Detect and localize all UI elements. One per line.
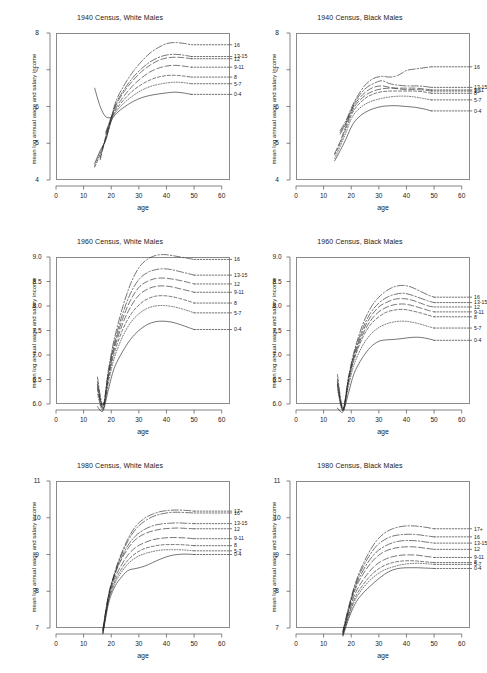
series-label-12: 12 [234,281,240,287]
x-axis-tick-label: 40 [394,192,418,199]
series-label-0-4: 0-4 [474,337,482,343]
x-axis-title: age [296,652,470,659]
series-line-9-11 [103,538,194,632]
y-axis-title: mean log annual wage and salary income [31,29,37,189]
x-axis-tick-label: 60 [450,640,474,647]
series-line-12 [97,278,194,407]
panel-p1940-white: 1940 Census, White Males1613-15129-1185-… [0,0,240,224]
series-line-16 [103,512,194,629]
series-label-16: 16 [234,510,240,516]
x-axis-tick-label: 30 [127,416,151,423]
x-axis-title: age [296,428,470,435]
series-line-13-15 [337,293,434,409]
x-axis-title: age [56,652,230,659]
series-line-8 [103,545,194,633]
x-axis-tick-label: 30 [367,416,391,423]
x-axis-title: age [56,204,230,211]
x-axis-tick-label: 50 [182,192,206,199]
x-axis-tick-label: 30 [367,640,391,647]
series-line-0-4 [95,92,192,163]
x-axis-tick-label: 30 [127,192,151,199]
x-axis-tick-label: 40 [154,192,178,199]
x-axis-tick-label: 30 [127,640,151,647]
x-axis-tick-label: 60 [450,192,474,199]
x-axis-tick-label: 60 [450,416,474,423]
x-axis-tick-label: 60 [210,416,234,423]
x-axis-tick-label: 20 [339,192,363,199]
series-line-8 [335,91,432,155]
panel-p1940-black: 1940 Census, Black Males1613-15129-1185-… [240,0,480,224]
series-line-0-4 [337,337,434,412]
x-axis-tick-label: 60 [210,192,234,199]
y-axis-title: mean log annual wage and salary income [31,477,37,637]
y-axis-title: mean log annual wage and salary income [271,253,277,413]
x-axis-tick-label: 10 [312,192,336,199]
series-label-8: 8 [474,90,477,96]
y-axis-title: mean log annual wage and salary income [31,253,37,413]
x-axis-tick-label: 20 [99,416,123,423]
series-line-9-11 [337,304,434,410]
x-axis-tick-label: 20 [99,640,123,647]
series-label-17plus: 17+ [474,526,483,532]
x-axis-tick-label: 50 [422,416,446,423]
x-axis-tick-label: 0 [284,192,308,199]
series-line-13-15 [103,523,194,630]
series-label-0-4: 0-4 [474,565,482,571]
series-line-16 [97,255,194,405]
panel-p1960-white: 1960 Census, White Males1613-15129-1185-… [0,224,240,448]
series-label-16: 16 [474,64,480,70]
x-axis-tick-label: 40 [154,416,178,423]
x-axis-tick-label: 40 [394,416,418,423]
series-line-0-4 [97,321,194,411]
series-line-12 [337,299,434,410]
x-axis-tick-label: 0 [284,640,308,647]
x-axis-tick-label: 30 [367,192,391,199]
x-axis-tick-label: 20 [339,416,363,423]
series-label-16: 16 [234,42,240,48]
series-line-5-7 [335,96,432,159]
series-label-8: 8 [234,300,237,306]
x-axis-tick-label: 10 [72,416,96,423]
x-axis-tick-label: 40 [394,640,418,647]
series-label-12: 12 [474,546,480,552]
x-axis-tick-label: 50 [182,640,206,647]
series-label-5-7: 5-7 [474,325,482,331]
x-axis-tick-label: 60 [210,640,234,647]
series-line-0-4 [343,568,434,636]
series-line-8 [95,75,192,167]
series-line-13-15 [97,269,194,406]
series-label-8: 8 [474,314,477,320]
x-axis-tick-label: 0 [44,416,68,423]
y-axis-title: mean log annual wage and salary income [271,477,277,637]
panel-p1980-black: 1980 Census, Black Males17+1613-15129-11… [240,448,480,672]
series-line-young-dip [95,88,112,118]
panel-p1980-white: 1980 Census, White Males17+1613-15129-11… [0,448,240,672]
y-axis-title: mean log annual wage and salary income [271,29,277,189]
series-label-13-15: 13-15 [474,540,487,546]
series-label-12: 12 [234,56,240,62]
series-line-5-7 [343,563,434,635]
x-axis-tick-label: 50 [182,416,206,423]
series-line-16 [337,285,434,408]
series-line-9-11 [97,286,194,408]
x-axis-tick-label: 10 [312,640,336,647]
x-axis-tick-label: 0 [284,416,308,423]
x-axis-tick-label: 50 [422,192,446,199]
series-line-16 [340,67,431,131]
x-axis-tick-label: 10 [72,640,96,647]
x-axis-tick-label: 20 [99,192,123,199]
x-axis-tick-label: 0 [44,192,68,199]
panel-p1960-black: 1960 Census, Black Males1613-15129-1185-… [240,224,480,448]
series-label-16: 16 [234,256,240,262]
series-label-12: 12 [234,526,240,532]
series-line-5-7 [103,550,194,633]
series-label-5-7: 5-7 [474,97,482,103]
series-line-12 [340,86,431,134]
series-line-17plus [343,526,434,631]
x-axis-tick-label: 50 [422,640,446,647]
series-label-16: 16 [474,534,480,540]
x-axis-title: age [56,428,230,435]
series-label-8: 8 [234,74,237,80]
series-line-9-11 [100,65,191,159]
